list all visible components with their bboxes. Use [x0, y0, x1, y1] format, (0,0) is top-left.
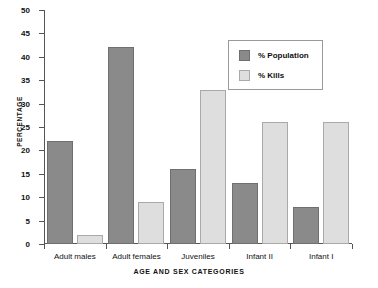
legend: % Population % Kills [228, 40, 323, 90]
x-tick [106, 244, 107, 249]
y-tick-label: 20 [21, 146, 30, 155]
legend-label-population: % Population [258, 51, 309, 60]
y-tick-label: 5 [26, 216, 30, 225]
y-tick-label: 35 [21, 76, 30, 85]
x-tick [229, 244, 230, 249]
y-tick: 5 [39, 221, 44, 222]
bar-kills [323, 122, 349, 244]
y-tick: 15 [39, 174, 44, 175]
bar-kills [200, 90, 226, 244]
bar-population [108, 47, 134, 244]
y-tick: 25 [39, 127, 44, 128]
bar-kills [262, 122, 288, 244]
x-tick [352, 244, 353, 249]
bar-population [170, 169, 196, 244]
y-tick-label: 30 [21, 99, 30, 108]
y-tick: 45 [39, 33, 44, 34]
bar-population [232, 183, 258, 244]
legend-swatch-kills [239, 70, 250, 81]
bar-chart: PERCENTAGE 05101520253035404550 Adult ma… [0, 0, 378, 288]
x-category-label: Adult females [112, 252, 160, 261]
bar-kills [138, 202, 164, 244]
x-axis-title: AGE AND SEX CATEGORIES [0, 268, 378, 275]
y-tick: 35 [39, 80, 44, 81]
x-tick [44, 244, 45, 249]
y-tick: 30 [39, 104, 44, 105]
x-category-label: Infant II [246, 252, 273, 261]
bar-kills [77, 235, 103, 244]
legend-entry-kills: % Kills [239, 70, 284, 81]
y-tick: 50 [39, 10, 44, 11]
x-category-label: Adult males [54, 252, 96, 261]
bar-population [293, 207, 319, 244]
y-tick-label: 45 [21, 29, 30, 38]
legend-label-kills: % Kills [258, 71, 284, 80]
y-tick: 40 [39, 57, 44, 58]
x-category-label: Juveniles [181, 252, 214, 261]
y-tick-label: 40 [21, 52, 30, 61]
x-tick [167, 244, 168, 249]
legend-swatch-population [239, 50, 250, 61]
y-tick-label: 0 [26, 240, 30, 249]
y-tick: 10 [39, 197, 44, 198]
legend-entry-population: % Population [239, 50, 309, 61]
y-tick-label: 15 [21, 169, 30, 178]
x-category-label: Infant I [309, 252, 333, 261]
y-tick-label: 25 [21, 123, 30, 132]
bar-population [47, 141, 73, 244]
y-tick: 20 [39, 150, 44, 151]
y-tick-label: 10 [21, 193, 30, 202]
y-tick-label: 50 [21, 6, 30, 15]
x-tick [290, 244, 291, 249]
y-axis-line [44, 10, 45, 244]
